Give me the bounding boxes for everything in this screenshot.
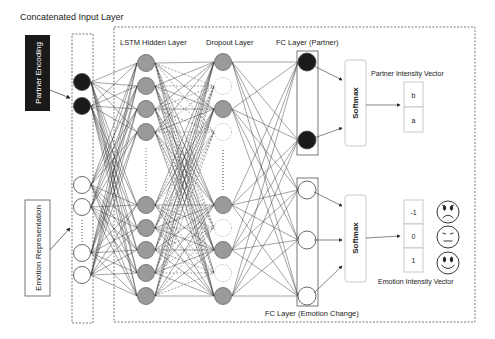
dropout-node (215, 101, 232, 118)
dropped-node (215, 78, 232, 95)
emotion-vector-value: -1 (410, 209, 416, 216)
fc-node (298, 131, 316, 149)
title-label: Concatenated Input Layer (20, 12, 124, 22)
fc-node (298, 53, 316, 71)
fc-node (298, 231, 316, 249)
neutral-face-icon (437, 226, 459, 248)
fc-node (298, 287, 316, 305)
lstm-label: LSTM Hidden Layer (120, 38, 187, 47)
partner-vector-value: b (412, 92, 416, 99)
happy-face-icon (437, 252, 459, 274)
lstm-node (138, 55, 155, 72)
dropped-node (215, 124, 232, 141)
fc-partner-label: FC Layer (Partner) (276, 38, 339, 47)
dropout-node (215, 242, 232, 259)
partner-vector-value: a (412, 117, 416, 124)
lstm-node (138, 124, 155, 141)
dropout-node (215, 288, 232, 305)
lstm-node (138, 101, 155, 118)
partner-arrow (50, 90, 70, 98)
lstm-node (138, 197, 155, 214)
input-node (74, 267, 91, 284)
network-diagram: Concatenated Input Layer LSTM Hidden Lay… (0, 0, 495, 339)
connections (91, 62, 298, 296)
emotion-vector-value: 1 (412, 257, 416, 264)
lstm-node (138, 78, 155, 95)
dropout-node (215, 197, 232, 214)
dropped-node (215, 220, 232, 237)
nodes (74, 53, 317, 305)
lstm-node (138, 265, 155, 282)
emotion-arrow (50, 228, 70, 250)
lstm-node (138, 242, 155, 259)
sad-face-icon (437, 201, 459, 223)
emotion-representation-label: Emotion Representation (34, 205, 43, 291)
partner-vector-label: Partner Intensity Vector (371, 70, 444, 78)
fc-node (298, 181, 316, 199)
partner-encoding-label: Partner Encoding (34, 42, 43, 104)
lstm-node (138, 288, 155, 305)
input-node (74, 74, 91, 91)
softmax-partner-label: Softmax (351, 87, 360, 119)
emotion-vector-label: Emotion Intensity Vector (378, 278, 454, 286)
lstm-node (138, 220, 155, 237)
input-node (74, 98, 91, 115)
input-node (74, 177, 91, 194)
input-node (74, 199, 91, 216)
input-node (74, 245, 91, 262)
dropped-node (215, 265, 232, 282)
dropout-node (215, 54, 232, 71)
emotion-vector-value: 0 (412, 233, 416, 240)
softmax-emotion-label: Softmax (351, 222, 360, 254)
dropout-label: Dropout Layer (206, 38, 254, 47)
fc-emotion-label: FC Layer (Emotion Change) (265, 309, 359, 318)
